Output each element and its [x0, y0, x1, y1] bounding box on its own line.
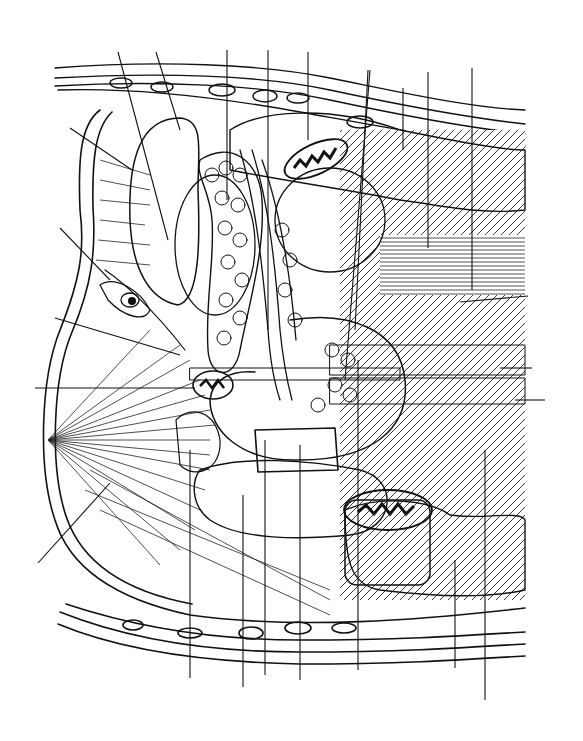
- psoas-muscle: [380, 235, 525, 295]
- leader-line-left-2: [60, 228, 110, 280]
- leader-line-left-3: [55, 318, 180, 355]
- pancreas-lobules: [205, 161, 357, 412]
- duodenum-mucosa: [200, 380, 224, 388]
- ureter-lumen: [128, 297, 136, 305]
- mesenteric-vessel-section: [255, 428, 338, 472]
- kidney-lower-pole: [100, 282, 150, 317]
- small-bowel-loop-left: [176, 412, 220, 472]
- anatomical-figure: [0, 0, 583, 741]
- leader-line-top-1: [118, 52, 168, 240]
- left-dark-organ: [130, 118, 199, 305]
- abdominal-cross-section-drawing: [0, 0, 583, 741]
